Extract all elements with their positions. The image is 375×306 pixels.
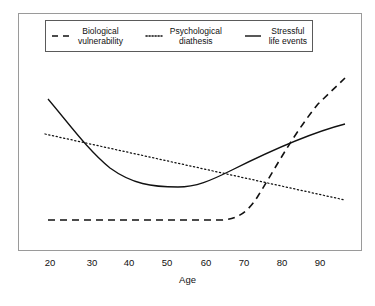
legend-label-psychological-diathesis: Psychologicaldiathesis xyxy=(170,26,222,46)
x-axis-title: Age xyxy=(0,274,375,285)
dashed-line-icon xyxy=(51,31,73,41)
legend-label-stressful-life-events: Stressfullife events xyxy=(269,26,307,46)
legend-label-biological-vulnerability: Biologicalvulnerability xyxy=(78,26,123,46)
dotted-line-icon xyxy=(143,31,165,41)
legend-item-psychological-diathesis: Psychologicaldiathesis xyxy=(143,26,222,46)
legend-item-biological-vulnerability: Biologicalvulnerability xyxy=(51,26,123,46)
x-tick-40: 40 xyxy=(117,257,141,268)
x-tick-90: 90 xyxy=(308,257,332,268)
x-tick-60: 60 xyxy=(194,257,218,268)
x-tick-80: 80 xyxy=(270,257,294,268)
solid-line-icon xyxy=(242,31,264,41)
chart-legend: Biologicalvulnerability Psychologicaldia… xyxy=(45,20,313,52)
x-tick-50: 50 xyxy=(155,257,179,268)
x-tick-30: 30 xyxy=(80,257,104,268)
x-tick-20: 20 xyxy=(38,257,62,268)
legend-item-stressful-life-events: Stressfullife events xyxy=(242,26,307,46)
x-tick-70: 70 xyxy=(232,257,256,268)
age-risk-line-chart: Biologicalvulnerability Psychologicaldia… xyxy=(0,0,375,306)
